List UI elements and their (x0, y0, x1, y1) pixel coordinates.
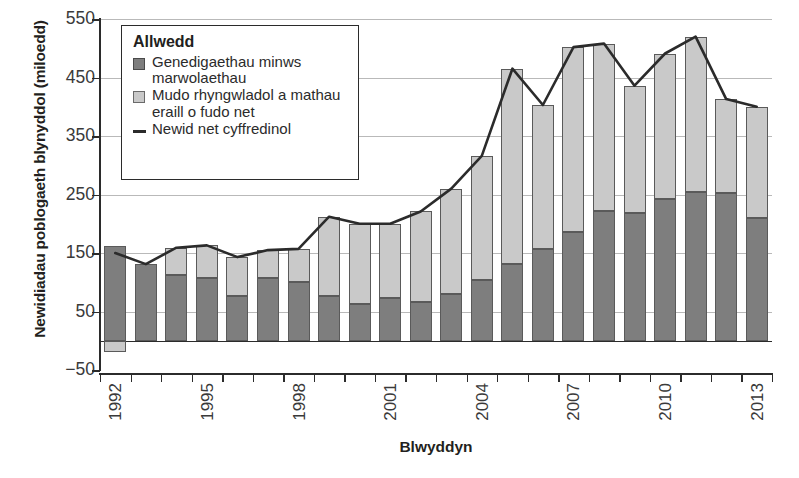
legend-item-label: Newid net cyffredinol (152, 121, 291, 137)
chart-root: Newidiadau poblogaeth blynyddol (miloedd… (0, 0, 799, 478)
legend-item: Newid net cyffredinol (133, 121, 349, 137)
x-tick-mark (528, 373, 529, 382)
y-tick-mark (92, 312, 100, 314)
x-tick-label: 2004 (473, 383, 493, 421)
x-tick-mark (711, 373, 712, 382)
x-tick-mark (589, 373, 590, 382)
x-tick-mark (222, 373, 223, 382)
y-tick-label: 350 (5, 125, 95, 146)
legend-line-icon (133, 130, 146, 133)
x-tick-mark (253, 373, 254, 382)
gridline (100, 370, 772, 371)
x-tick-mark (467, 373, 468, 382)
legend-items: Genedigaethau minws marwolaethauMudo rhy… (133, 54, 349, 137)
x-tick-mark (344, 373, 345, 382)
y-tick-label: 250 (5, 184, 95, 205)
legend-item: Mudo rhyngwladol a mathau eraill o fudo … (133, 87, 349, 119)
y-tick-label: 50 (5, 301, 95, 322)
x-tick-mark (558, 373, 559, 382)
x-tick-mark (741, 373, 742, 382)
legend-item: Genedigaethau minws marwolaethau (133, 54, 349, 86)
x-tick-mark (497, 373, 498, 382)
legend-swatch-icon (133, 91, 145, 103)
x-tick-mark (192, 373, 193, 382)
x-tick-mark (680, 373, 681, 382)
x-tick-mark (375, 373, 376, 382)
x-tick-label: 2010 (656, 383, 676, 421)
x-tick-mark (283, 373, 284, 382)
x-tick-mark (619, 373, 620, 382)
y-tick-mark (92, 78, 100, 80)
x-tick-label: 1992 (106, 383, 126, 421)
x-tick-label: 2007 (564, 383, 584, 421)
y-tick-label: 450 (5, 67, 95, 88)
legend-title: Allwedd (133, 33, 349, 51)
x-tick-label: 2013 (748, 383, 768, 421)
x-tick-label: 1995 (198, 383, 218, 421)
legend-box: Allwedd Genedigaethau minws marwolaethau… (121, 25, 359, 180)
x-tick-mark (772, 373, 773, 382)
y-tick-mark (92, 370, 100, 372)
x-axis-title: Blwyddyn (100, 438, 772, 456)
x-tick-mark (650, 373, 651, 382)
x-tick-mark (314, 373, 315, 382)
y-tick-label: 550 (5, 8, 95, 29)
x-tick-mark (161, 373, 162, 382)
x-tick-mark (405, 373, 406, 382)
x-tick-mark (100, 373, 101, 382)
legend-item-label: Genedigaethau minws marwolaethau (152, 54, 349, 86)
legend-swatch-icon (133, 58, 145, 70)
x-tick-label: 2001 (381, 383, 401, 421)
legend-item-label: Mudo rhyngwladol a mathau eraill o fudo … (152, 87, 349, 119)
x-tick-mark (436, 373, 437, 382)
x-tick-mark (131, 373, 132, 382)
y-tick-label: −50 (5, 359, 95, 380)
y-tick-mark (92, 195, 100, 197)
y-tick-label: 150 (5, 242, 95, 263)
y-tick-mark (92, 136, 100, 138)
y-tick-mark (92, 19, 100, 21)
y-tick-mark (92, 253, 100, 255)
x-tick-label: 1998 (290, 383, 310, 421)
